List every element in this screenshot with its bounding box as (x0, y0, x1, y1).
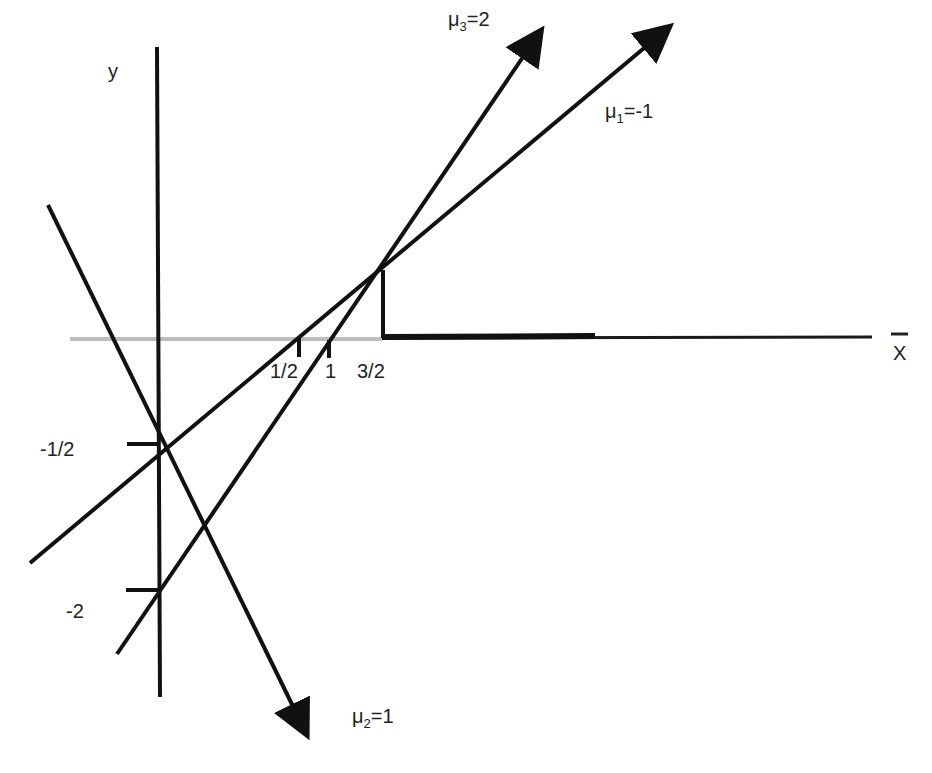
y-axis (157, 47, 160, 697)
mu2-symbol: μ (352, 705, 364, 727)
x-tick-label-3-2: 3/2 (357, 360, 385, 383)
y-tick-label-neg-1-2: -1/2 (40, 438, 74, 461)
mu1-sub: 1 (617, 111, 624, 126)
label-mu2: μ2=1 (352, 705, 394, 731)
label-mu1: μ1=-1 (605, 100, 653, 126)
diagram-canvas: y X 1/2 1 3/2 -1/2 -2 μ3=2 μ1=-1 μ2=1 (0, 0, 932, 773)
x-axis-label: X (893, 342, 906, 365)
x-tick-label-1: 1 (325, 360, 336, 383)
x-tick-label-1-2: 1/2 (270, 360, 298, 383)
line-mu2 (48, 205, 306, 733)
mu2-sub: 2 (364, 716, 371, 731)
y-tick-label-neg-2: -2 (66, 600, 84, 623)
diagram-svg (0, 0, 932, 773)
mu3-value: =2 (467, 8, 490, 30)
mu2-value: =1 (371, 705, 394, 727)
line-mu1 (30, 28, 668, 563)
feasible-segment (382, 336, 595, 337)
mu3-sub: 3 (460, 19, 467, 34)
mu1-symbol: μ (605, 100, 617, 122)
line-mu3 (117, 32, 540, 654)
y-axis-label: y (108, 60, 118, 83)
label-mu3: μ3=2 (448, 8, 490, 34)
mu1-value: =-1 (624, 100, 653, 122)
mu3-symbol: μ (448, 8, 460, 30)
